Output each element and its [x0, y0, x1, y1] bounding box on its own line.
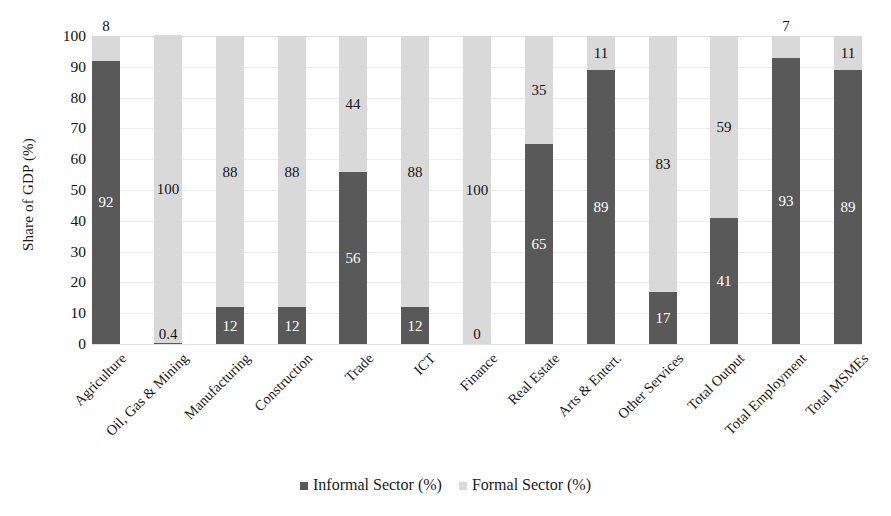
bar-value-label-formal: 44	[346, 97, 361, 112]
plot-area: 9280.41001288128856441288010065358911178…	[92, 36, 862, 344]
y-tick-label-0: 0	[34, 336, 86, 352]
bar-value-label-informal: 17	[656, 311, 671, 326]
bar-value-label-formal: 8	[102, 19, 110, 34]
bar-value-label-formal: 88	[223, 165, 238, 180]
bar-value-label-informal: 65	[532, 237, 547, 252]
x-category-label: Other Services	[614, 350, 687, 423]
bar-group[interactable]: 1783	[649, 36, 677, 344]
bar-value-label-informal: 89	[841, 200, 856, 215]
y-axis-tick-labels: 1009080706050403020100	[34, 36, 86, 344]
bar-value-label-informal: 89	[594, 200, 609, 215]
bar-value-label-informal: 92	[99, 195, 114, 210]
x-category-label: Manufacturing	[181, 350, 254, 423]
bar-group[interactable]: 4159	[710, 36, 738, 344]
y-tick-label-50: 50	[34, 182, 86, 198]
bar-value-label-formal: 88	[408, 165, 423, 180]
bar-value-label-formal: 100	[157, 182, 180, 197]
bar-value-label-formal: 100	[466, 183, 489, 198]
bar-group[interactable]: 1288	[278, 36, 306, 344]
x-category-label: Real Estate	[505, 350, 563, 408]
chart-legend: Informal Sector (%)Formal Sector (%)	[0, 476, 891, 494]
y-tick-label-60: 60	[34, 151, 86, 167]
stacked-bar-chart: Share of GDP (%) 1009080706050403020100 …	[0, 0, 891, 516]
legend-item[interactable]: Informal Sector (%)	[300, 476, 442, 494]
formal-swatch	[459, 482, 467, 490]
y-tick-label-10: 10	[34, 305, 86, 321]
bar-group[interactable]: 1288	[401, 36, 429, 344]
legend-item-label: Formal Sector (%)	[472, 476, 591, 494]
bar-segment-formal[interactable]	[92, 36, 120, 61]
x-category-label: Total Output	[684, 350, 748, 414]
bar-value-label-informal: 0	[473, 327, 481, 342]
x-category-label: ICT	[410, 350, 439, 379]
bar-value-label-formal: 83	[656, 157, 671, 172]
bar-value-label-informal: 93	[779, 194, 794, 209]
y-tick-label-90: 90	[34, 59, 86, 75]
x-axis-category-labels: AgricultureOil, Gas & MiningManufacturin…	[92, 344, 862, 474]
x-category-label: Agriculture	[71, 350, 130, 409]
bar-value-label-informal: 12	[285, 319, 300, 334]
y-tick-label-80: 80	[34, 90, 86, 106]
bar-value-label-informal: 41	[717, 274, 732, 289]
bar-group[interactable]: 1288	[216, 36, 244, 344]
informal-swatch	[300, 482, 308, 490]
y-tick-label-20: 20	[34, 275, 86, 291]
y-tick-label-70: 70	[34, 121, 86, 137]
bar-value-label-formal: 11	[841, 46, 855, 61]
bar-group[interactable]: 0100	[463, 36, 491, 344]
legend-item-label: Informal Sector (%)	[313, 476, 442, 494]
bar-group[interactable]: 8911	[834, 36, 862, 344]
bar-value-label-informal: 0.4	[159, 327, 178, 342]
bar-group[interactable]: 937	[772, 36, 800, 344]
bar-group[interactable]: 928	[92, 36, 120, 344]
bar-segment-formal[interactable]	[772, 36, 800, 58]
bar-value-label-formal: 11	[594, 46, 608, 61]
bar-value-label-formal: 59	[717, 120, 732, 135]
bar-group[interactable]: 8911	[587, 36, 615, 344]
bar-group[interactable]: 0.4100	[154, 36, 182, 344]
x-category-label: Finance	[457, 350, 501, 394]
bar-value-label-informal: 12	[408, 319, 423, 334]
bar-value-label-formal: 35	[532, 83, 547, 98]
x-category-label: Trade	[341, 350, 377, 386]
y-tick-label-30: 30	[34, 244, 86, 260]
bar-value-label-formal: 88	[285, 165, 300, 180]
x-category-label: Construction	[251, 350, 316, 415]
y-tick-label-100: 100	[34, 28, 86, 44]
bar-group[interactable]: 5644	[339, 36, 367, 344]
x-category-label: Total MSMEs	[802, 350, 872, 420]
legend-item[interactable]: Formal Sector (%)	[459, 476, 591, 494]
bar-group[interactable]: 6535	[525, 36, 553, 344]
bar-value-label-informal: 12	[223, 319, 238, 334]
bar-value-label-formal: 7	[782, 19, 790, 34]
bar-value-label-informal: 56	[346, 251, 361, 266]
y-tick-label-40: 40	[34, 213, 86, 229]
